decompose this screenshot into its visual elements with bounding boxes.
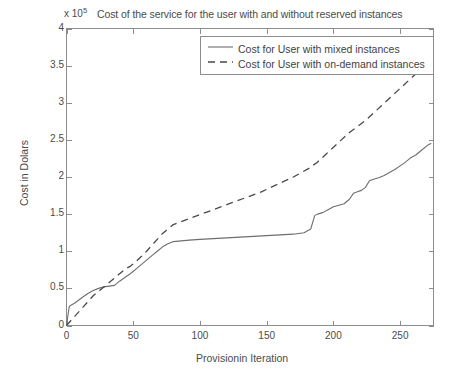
series-line-mixed-instances: [67, 144, 431, 326]
x-axis-label: Provisionin Iteration: [196, 352, 288, 364]
y-tick-label: 3.5: [24, 59, 64, 70]
y-tick-label: 0: [24, 319, 64, 330]
y-tick-label: 1.5: [24, 207, 64, 218]
x-tick-label: 250: [380, 330, 420, 341]
y-tick-label: 0.5: [24, 281, 64, 292]
y-tick-label: 1: [24, 244, 64, 255]
x-tick-label: 200: [313, 330, 353, 341]
y-tick-label: 2.5: [24, 133, 64, 144]
x-tick-label: 150: [247, 330, 287, 341]
chart-title: Cost of the service for the user with an…: [97, 8, 402, 20]
y-axis-exponent: x 105: [64, 8, 87, 19]
series-line-on-demand-instances: [67, 62, 431, 326]
x-tick-label: 0: [47, 330, 87, 341]
chart-figure: Cost of the service for the user with an…: [0, 0, 464, 374]
legend-label-on-demand-instances: Cost for User with on-demand instances: [238, 58, 425, 70]
y-tick-label: 2: [24, 170, 64, 181]
y-tick-label: 4: [24, 22, 64, 33]
y-axis-exponent-prefix: x 10: [64, 8, 83, 19]
legend-label-mixed-instances: Cost for User with mixed instances: [238, 43, 400, 55]
x-tick-label: 100: [180, 330, 220, 341]
plot-canvas: [0, 0, 464, 374]
y-axis-exponent-power: 5: [83, 6, 87, 15]
y-tick-label: 3: [24, 96, 64, 107]
x-tick-label: 50: [113, 330, 153, 341]
